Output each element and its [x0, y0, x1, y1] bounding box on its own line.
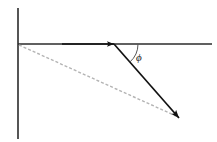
vector-diagram: ϕ	[0, 0, 217, 142]
figure-canvas: ϕ	[0, 0, 217, 142]
angle-label-phi: ϕ	[136, 51, 142, 63]
figure-background	[0, 0, 217, 142]
